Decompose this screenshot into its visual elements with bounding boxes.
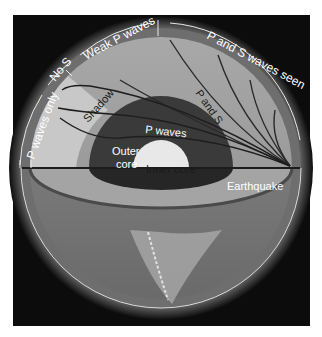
- label-outer-core-2: core: [116, 158, 137, 170]
- label-outer-core-1: Outer: [112, 145, 140, 157]
- label-earthquake: Earthquake: [227, 180, 283, 192]
- label-inner-core: Inner core: [146, 163, 196, 175]
- earth-cross-section: P waves only No S Weak P waves P and S w…: [0, 0, 322, 337]
